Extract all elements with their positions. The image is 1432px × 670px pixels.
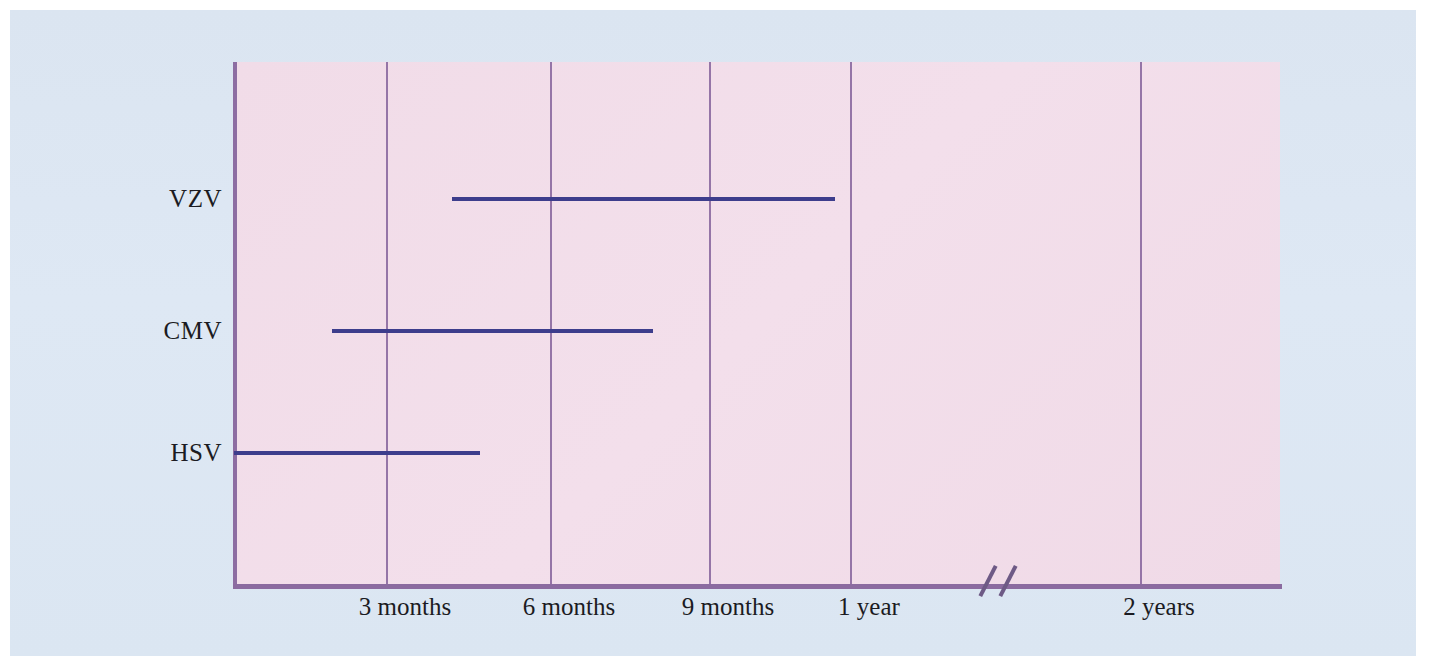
plot-area (234, 62, 1280, 587)
x-tick-label-9-months: 9 months (682, 592, 774, 622)
x-tick-label-2-years: 2 years (1123, 592, 1195, 622)
x-axis-tick-labels: 3 months6 months9 months1 year2 years (0, 592, 1432, 640)
gridline-9-months (709, 62, 711, 587)
category-axis-labels: VZVCMVHSV (64, 0, 222, 670)
gridline-3-months (386, 62, 388, 587)
category-label-hsv: HSV (72, 440, 222, 465)
duration-bar-cmv (332, 329, 653, 333)
category-label-vzv: VZV (72, 186, 222, 211)
duration-bar-vzv (452, 197, 835, 201)
x-tick-label-6-months: 6 months (523, 592, 615, 622)
figure-canvas: VZVCMVHSV 3 months6 months9 months1 year… (0, 0, 1432, 670)
category-label-cmv: CMV (72, 318, 222, 343)
x-tick-label-3-months: 3 months (359, 592, 451, 622)
duration-bar-hsv (234, 451, 480, 455)
y-axis-spine (233, 62, 237, 587)
x-tick-label-1-year: 1 year (838, 592, 900, 622)
x-axis-spine (233, 584, 1282, 589)
gridline-6-months (550, 62, 552, 587)
gridline-2-years (1140, 62, 1142, 587)
gridline-1-year (850, 62, 852, 587)
